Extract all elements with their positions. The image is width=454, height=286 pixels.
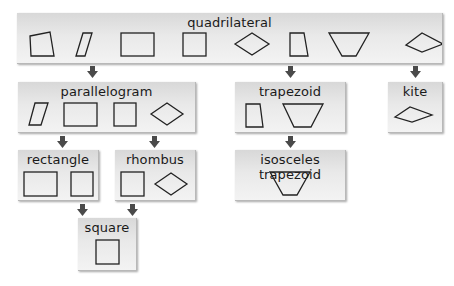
node-kite: kite: [388, 82, 443, 133]
node-parallelogram: parallelogram: [18, 82, 196, 133]
arrow-down-icon: [285, 136, 296, 148]
node-trapezoid: trapezoid: [235, 82, 346, 133]
square-shape: [71, 172, 93, 196]
parallelogram-shape: [76, 33, 92, 56]
node-rectangle: rectangle: [18, 150, 99, 201]
quadrilateral-shapes: [17, 13, 442, 63]
trapezoid-shapes: [235, 82, 345, 132]
node-square: square: [78, 218, 137, 271]
isosceles-trapezoid-shape: [283, 104, 323, 127]
rectangle-shape: [121, 33, 154, 56]
rhombus-shape: [155, 173, 187, 195]
square-shape: [96, 240, 119, 264]
isosceles-trapezoid-shape: [270, 172, 310, 195]
parallelogram-shape: [29, 103, 48, 125]
kite-shape: [406, 33, 442, 52]
rectangle-shape: [24, 172, 57, 196]
node-rhombus: rhombus: [115, 150, 196, 201]
isosceles-trapezoid-shapes: [235, 150, 345, 200]
rhombus-shapes: [115, 150, 195, 200]
square-shape: [121, 172, 144, 196]
arrow-down-icon: [410, 66, 421, 78]
isosceles-trapezoid-shape: [329, 33, 369, 56]
square-shapes: [78, 218, 136, 270]
node-isosceles-trapezoid: isosceles trapezoid: [235, 150, 346, 201]
rhombus-shape: [235, 33, 269, 55]
rhombus-shape: [151, 103, 183, 125]
rectangle-shapes: [18, 150, 98, 200]
kite-shapes: [388, 82, 442, 132]
general-quadrilateral-shape: [30, 32, 54, 56]
arrow-down-icon: [149, 136, 160, 148]
arrow-down-icon: [87, 66, 98, 78]
square-shape: [114, 103, 136, 126]
node-quadrilateral: quadrilateral: [17, 13, 443, 64]
parallelogram-shapes: [18, 82, 195, 132]
right-trapezoid-shape: [290, 33, 308, 56]
arrow-down-icon: [77, 204, 88, 216]
arrow-down-icon: [285, 66, 296, 78]
arrow-down-icon: [57, 136, 68, 148]
right-trapezoid-shape: [246, 104, 263, 127]
square-shape: [183, 33, 206, 56]
kite-shape: [395, 107, 432, 122]
rectangle-shape: [64, 103, 97, 126]
arrow-down-icon: [127, 204, 138, 216]
